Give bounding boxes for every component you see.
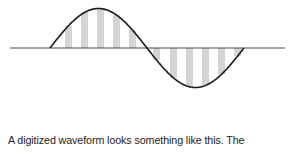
sample-bar — [170, 48, 177, 78]
sample-bar — [81, 12, 88, 48]
sample-bar — [218, 48, 225, 74]
sample-bar — [113, 15, 120, 48]
sample-bar — [186, 48, 193, 87]
caption-text: A digitized waveform looks something lik… — [8, 134, 268, 146]
waveform-diagram — [0, 0, 288, 110]
sample-bar — [202, 48, 209, 85]
sample-bar — [97, 9, 104, 48]
